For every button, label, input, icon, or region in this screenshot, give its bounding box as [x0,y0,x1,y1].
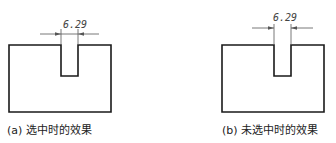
dimension-text-b[interactable]: 6.29 [273,12,297,23]
arrow-left-icon [55,32,61,35]
dimension-text-a[interactable]: 6.29 [63,19,87,30]
caption-b: (b) 未选中时的效果 [222,121,318,137]
arrow-right-icon [291,26,297,29]
arrow-left-icon [268,26,274,29]
arrow-right-icon [78,32,84,35]
drawing-b: 6.29 [222,12,324,112]
slotted-rectangle-b [222,45,324,112]
slotted-rectangle-a [9,45,111,112]
caption-a: (a) 选中时的效果 [7,121,92,137]
drawing-a: 6.29 [9,19,111,112]
